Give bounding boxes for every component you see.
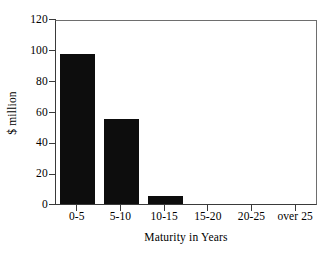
x-tick-label: over 25 bbox=[267, 210, 323, 223]
bar-series bbox=[56, 21, 316, 204]
y-tick-label: 20 bbox=[36, 168, 48, 180]
y-axis-title: $ million bbox=[6, 91, 18, 135]
y-tick-label: 40 bbox=[36, 137, 48, 149]
plot-area bbox=[55, 20, 317, 205]
y-axis-title-container: $ million bbox=[4, 20, 20, 205]
bar-chart-figure: $ million 020406080100120 0-55-1010-1515… bbox=[0, 0, 334, 264]
y-tick-label: 60 bbox=[36, 107, 48, 119]
bar bbox=[148, 196, 183, 204]
x-axis-title: Maturity in Years bbox=[55, 231, 317, 244]
bar bbox=[60, 54, 95, 204]
bar bbox=[104, 119, 139, 204]
y-tick-label: 100 bbox=[30, 45, 48, 57]
y-tick-label: 80 bbox=[36, 76, 48, 88]
y-tick-label: 120 bbox=[30, 14, 48, 26]
y-tick-label: 0 bbox=[42, 199, 48, 211]
